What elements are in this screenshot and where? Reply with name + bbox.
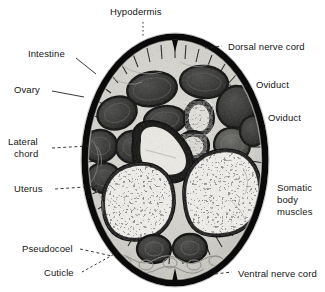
label-lateral-chord-line1: Lateral: [8, 136, 38, 148]
label-pseudocoel: Pseudocoel: [22, 243, 73, 255]
label-oviduct-lower: Oviduct: [268, 112, 301, 124]
figure-nematode-cross-section: Hypodermis Dorsal nerve cord Intestine O…: [0, 0, 325, 292]
label-somatic-line1: Somatic: [277, 182, 312, 194]
label-dorsal-nerve-cord: Dorsal nerve cord: [228, 41, 305, 53]
label-cuticle: Cuticle: [44, 267, 74, 279]
label-ovary: Ovary: [14, 84, 40, 96]
label-hypodermis: Hypodermis: [110, 6, 162, 18]
label-ventral-nerve-cord: Ventral nerve cord: [238, 268, 317, 280]
label-intestine: Intestine: [28, 48, 65, 60]
label-somatic-line2: body: [277, 194, 298, 206]
label-oviduct-upper: Oviduct: [256, 79, 289, 91]
label-lateral-chord-line2: chord: [14, 148, 38, 160]
label-uterus: Uterus: [14, 183, 43, 195]
label-somatic-line3: muscles: [277, 206, 313, 218]
